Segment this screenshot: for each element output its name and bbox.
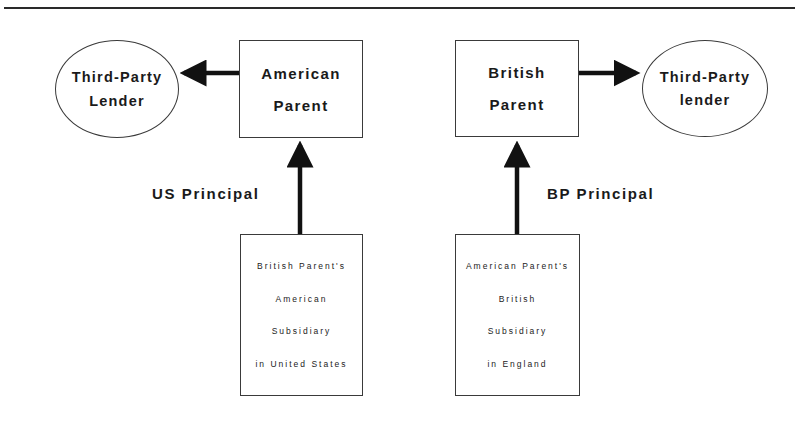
british-parent-box: British Parent: [455, 40, 579, 137]
american-parent-box: American Parent: [239, 40, 363, 138]
node-label-line: British: [488, 65, 545, 80]
node-label-line: American: [261, 66, 341, 81]
node-label-line: Third-Party: [72, 70, 163, 85]
node-label-line: American: [276, 295, 328, 304]
us-subsidiary-box: British Parent's American Subsidiary in …: [240, 234, 363, 396]
node-label-line: Subsidiary: [272, 327, 332, 336]
node-label-line: Lender: [89, 94, 145, 109]
uk-subsidiary-box: American Parent's British Subsidiary in …: [455, 234, 580, 396]
node-label-line: British: [499, 295, 537, 304]
node-label-line: British Parent's: [257, 262, 346, 271]
third-party-lender-left: Third-Party Lender: [55, 40, 179, 138]
node-label-line: in England: [487, 360, 547, 369]
node-label-line: American Parent's: [466, 262, 569, 271]
node-label-line: in United States: [255, 360, 347, 369]
third-party-lender-right: Third-Party lender: [642, 40, 768, 137]
node-label-line: Parent: [273, 98, 328, 113]
bp-principal-label: BP Principal: [547, 186, 654, 201]
node-label-line: Parent: [489, 97, 544, 112]
node-label-line: lender: [680, 93, 731, 108]
us-principal-label: US Principal: [152, 186, 260, 201]
node-label-line: Third-Party: [660, 70, 751, 85]
node-label-line: Subsidiary: [488, 327, 548, 336]
